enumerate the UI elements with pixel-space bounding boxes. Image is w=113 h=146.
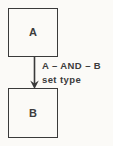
node-a-label: A — [29, 27, 37, 38]
edge-label-set-name: A – AND – B — [42, 61, 101, 71]
node-b-label: B — [29, 108, 37, 119]
node-a-box: A — [8, 8, 58, 57]
edge-label-set-type: set type — [42, 75, 81, 85]
diagram-canvas: A A – AND – B set type B — [0, 0, 113, 146]
down-arrow-icon — [28, 56, 41, 89]
node-b-box: B — [8, 88, 58, 138]
